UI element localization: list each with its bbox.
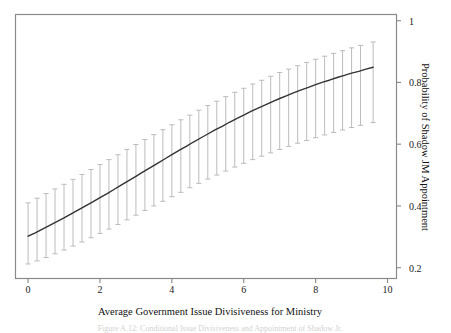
x-tick-label: 6	[241, 284, 246, 295]
x-tick-label: 8	[313, 284, 318, 295]
error-bar	[214, 101, 219, 175]
error-bar	[259, 80, 264, 156]
figure-container: 0246810 0.20.40.60.81 Average Government…	[0, 0, 451, 333]
error-bar	[322, 56, 327, 135]
error-bars-group	[25, 42, 375, 264]
x-axis-ticks	[28, 279, 387, 284]
error-bar	[196, 110, 201, 183]
error-bar	[25, 203, 30, 264]
error-bar	[349, 48, 354, 128]
error-bar	[277, 73, 282, 150]
error-bar	[313, 59, 318, 137]
error-bar	[358, 45, 363, 125]
y-tick-label: 1	[409, 15, 414, 26]
error-bar	[304, 62, 309, 140]
error-bar	[223, 97, 228, 171]
error-bar	[268, 76, 273, 153]
error-bar	[142, 140, 147, 211]
x-tick-label: 0	[26, 284, 31, 295]
prediction-curve	[28, 67, 373, 236]
error-bar	[115, 155, 120, 225]
error-bar	[124, 149, 129, 219]
error-bar	[169, 125, 174, 197]
error-bar	[151, 135, 156, 206]
error-bar	[160, 130, 165, 202]
error-bar	[178, 120, 183, 193]
error-bar	[340, 51, 345, 130]
error-bar	[133, 144, 138, 215]
error-bar	[286, 69, 291, 146]
y-axis-title: Probability of Shadow JM Appointment	[418, 14, 432, 280]
error-bar	[295, 66, 300, 144]
x-tick-label: 4	[169, 284, 174, 295]
x-tick-label: 10	[383, 284, 393, 295]
error-bar	[232, 92, 237, 167]
error-bar	[34, 198, 39, 261]
y-axis-ticks	[397, 21, 402, 268]
error-bar	[371, 42, 376, 123]
x-axis-title: Average Government Issue Divisiveness fo…	[0, 306, 420, 317]
error-bar	[241, 88, 246, 163]
error-bar	[205, 106, 210, 179]
figure-caption: Figure A.12: Conditional Issue Divisiven…	[0, 324, 440, 333]
error-bar	[187, 115, 192, 188]
error-bar	[250, 84, 255, 160]
error-bar	[331, 53, 336, 132]
x-tick-label: 2	[97, 284, 102, 295]
